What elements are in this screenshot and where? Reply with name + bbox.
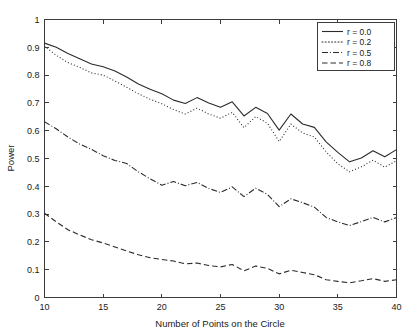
y-ticklabel-0.9: 0.9 [27,43,40,53]
series-line-r-0-5 [45,122,397,226]
legend-label-r-0-5: r = 0.5 [347,48,372,58]
y-ticklabel-0.5: 0.5 [27,154,40,164]
x-ticklabel-25: 25 [215,302,225,312]
figure-canvas: 10152025303540 00.10.20.30.40.50.60.70.8… [0,0,418,336]
y-ticklabel-0.6: 0.6 [27,126,40,136]
y-ticklabel-0: 0 [34,293,39,303]
y-ticklabel-0.8: 0.8 [27,70,40,80]
x-ticklabel-30: 30 [274,302,284,312]
legend-label-r-0-8: r = 0.8 [347,58,372,68]
x-axis-label: Number of Points on the Circle [155,318,284,329]
legend-label-r-0-0: r = 0.0 [347,27,372,37]
y-ticklabel-0.2: 0.2 [27,237,40,247]
data-series-group [45,43,397,283]
y-ticklabel-1: 1 [34,15,39,25]
y-axis-label: Power [5,145,16,172]
chart-legend: r = 0.0r = 0.2r = 0.5r = 0.8 [317,22,394,70]
x-ticklabel-15: 15 [98,302,108,312]
y-ticklabel-0.4: 0.4 [27,182,40,192]
y-ticklabel-0.1: 0.1 [27,265,40,275]
power-vs-points-line-chart: 10152025303540 00.10.20.30.40.50.60.70.8… [0,0,418,336]
x-ticklabel-35: 35 [333,302,343,312]
x-ticklabel-10: 10 [39,302,49,312]
legend-label-r-0-2: r = 0.2 [347,37,372,47]
x-ticklabel-20: 20 [157,302,167,312]
x-ticklabel-40: 40 [391,302,401,312]
y-ticklabel-0.7: 0.7 [27,98,40,108]
y-axis-tick-labels: 00.10.20.30.40.50.60.70.80.91 [27,15,40,303]
x-axis-tick-labels: 10152025303540 [39,302,401,312]
y-ticklabel-0.3: 0.3 [27,209,40,219]
